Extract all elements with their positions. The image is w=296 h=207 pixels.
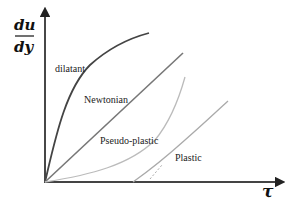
plastic-dashed-segment (150, 165, 162, 179)
dilatant-curve (45, 33, 149, 182)
x-axis-label: τ (262, 181, 274, 201)
plastic-label: Plastic (175, 152, 202, 163)
pseudo-plastic-label: Pseudo-plastic (100, 135, 159, 146)
pseudo-plastic-curve (45, 77, 185, 182)
y-axis-label-numerator: du (14, 16, 35, 34)
y-axis-label-denominator: dy (14, 38, 34, 56)
rheology-diagram: du dy τ dilatant Newtonian Pseudo-plasti… (0, 0, 296, 207)
dilatant-label: dilatant (55, 63, 85, 74)
newtonian-label: Newtonian (84, 94, 128, 105)
